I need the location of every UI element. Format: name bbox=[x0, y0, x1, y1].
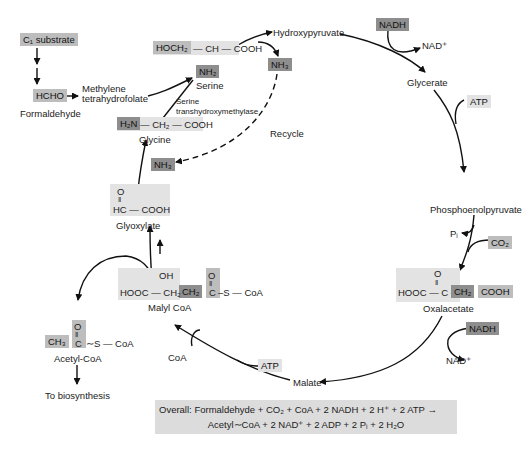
arrow-atp-top bbox=[455, 100, 464, 124]
nadh-top-box: NADH bbox=[376, 18, 409, 31]
serine-nh2: NH₂ bbox=[196, 65, 219, 78]
nad-top-label: NAD⁺ bbox=[422, 40, 447, 51]
overall-line1: Formaldehyde + CO₂ + CoA + 2 NADH + 2 H⁺… bbox=[194, 404, 437, 415]
acetyl-coa-label: Acetyl-CoA bbox=[54, 353, 102, 364]
atp-top-box: ATP bbox=[467, 95, 491, 108]
malyl-oh: OH bbox=[159, 270, 173, 281]
malyl-formula-a: HOOC — CH₂ bbox=[120, 287, 181, 298]
coa-label: CoA bbox=[168, 352, 186, 363]
methylene-thf-label-2: tetrahydrofolate bbox=[82, 93, 148, 104]
oxaloacetate-cooh: COOH bbox=[478, 285, 513, 298]
overall-label: Overall: bbox=[159, 404, 192, 415]
co2-box: CO₂ bbox=[488, 236, 512, 249]
arrows-layer bbox=[0, 0, 532, 452]
formaldehyde-label: Formaldehyde bbox=[20, 108, 81, 119]
serine-hoch2: HOCH₂ bbox=[153, 41, 191, 54]
arrow-atp-bottom bbox=[237, 360, 258, 366]
glycine-h2n: H₂N bbox=[117, 117, 140, 130]
pep-label: Phosphoenolpyruvate bbox=[430, 204, 522, 215]
arrow-thf-serine bbox=[148, 78, 192, 96]
overall-line2: Acetyl∼CoA + 2 NAD⁺ + 2 ADP + 2 Pᵢ + 2 H… bbox=[159, 417, 453, 432]
recycle-label: Recycle bbox=[270, 128, 304, 139]
overall-equation-box: Overall: Formaldehyde + CO₂ + CoA + 2 NA… bbox=[155, 400, 457, 434]
glycine-label: Glycine bbox=[139, 134, 171, 145]
pi-label: Pᵢ bbox=[450, 228, 458, 239]
arrow-pep-oxaloacetate bbox=[460, 215, 474, 270]
acetyl-scoa: ∼S — CoA bbox=[86, 338, 134, 349]
enzyme-label-2: transhydroxymethylase bbox=[176, 106, 258, 117]
glyoxylate-formula: HC — COOH bbox=[113, 204, 170, 215]
glycine-rest: — CH₂ — COOH bbox=[140, 119, 213, 130]
atp-bottom-box: ATP bbox=[258, 359, 282, 372]
nad-bottom-label: NAD⁺ bbox=[446, 355, 471, 366]
arrow-nadh-nad-top bbox=[388, 30, 420, 52]
arrow-co2 bbox=[468, 240, 490, 252]
nh3-bottom-box: NH₃ bbox=[151, 158, 175, 171]
hcho-box: HCHO bbox=[33, 89, 67, 102]
acetyl-c: C bbox=[75, 338, 82, 349]
serine-pathway-diagram: C₁ substrate HCHO Formaldehyde Methylene… bbox=[0, 0, 532, 452]
hydroxypyruvate-label: Hydroxypyruvate bbox=[273, 27, 344, 38]
malate-label: Malate bbox=[293, 377, 322, 388]
oxaloacetate-ch2: CH₂ bbox=[451, 285, 474, 298]
serine-ch-cooh: — CH — COOH bbox=[193, 43, 262, 54]
to-biosynthesis-label: To biosynthesis bbox=[45, 390, 110, 401]
arrow-glycerate-pep bbox=[434, 90, 464, 172]
oxaloacetate-label: Oxalacetate bbox=[423, 303, 474, 314]
nh3-top-box: NH₃ bbox=[268, 58, 292, 71]
serine-label: Serine bbox=[196, 80, 223, 91]
arrow-hydroxypyruvate-glycerate bbox=[340, 34, 425, 72]
malyl-coa-label: Malyl CoA bbox=[148, 302, 191, 313]
c1-substrate-box: C₁ substrate bbox=[20, 33, 78, 46]
glycerate-label: Glycerate bbox=[407, 77, 448, 88]
malyl-c: C bbox=[209, 287, 216, 298]
arrow-oxaloacetate-malate bbox=[320, 316, 442, 382]
acetyl-ch3-box: CH₃ bbox=[45, 335, 69, 348]
nadh-bottom-box: NADH bbox=[466, 322, 499, 335]
malyl-scoa: –S — CoA bbox=[218, 287, 263, 298]
glyoxylate-label: Glyoxylate bbox=[116, 220, 160, 231]
malyl-ch2-box: CH₂ bbox=[179, 285, 202, 298]
arrow-glyoxylate-glycine bbox=[138, 140, 146, 190]
